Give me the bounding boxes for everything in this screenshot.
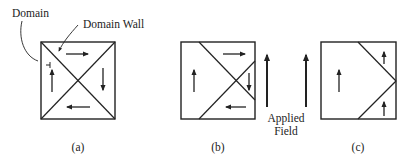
domain-diagram-figure: Domain Domain Wall (a) (b) Applied xyxy=(0,0,409,163)
domain-wall-label: Domain Wall xyxy=(83,18,144,30)
domain-wall-2 xyxy=(199,61,255,119)
panel-a: (a) xyxy=(41,42,115,154)
annotation-domain: Domain xyxy=(12,7,49,61)
applied-field-label-line2: Field xyxy=(274,125,298,137)
domain-wall-1 xyxy=(358,42,396,81)
applied-field-indicator: Applied Field xyxy=(267,55,306,137)
domain-wall-1 xyxy=(199,42,255,100)
domain-wall-2 xyxy=(358,81,396,119)
panel-c-caption: (c) xyxy=(352,141,365,154)
domain-wall-leader-arrow xyxy=(59,25,78,51)
annotation-domain-wall: Domain Wall xyxy=(59,18,144,51)
panel-c: (c) xyxy=(321,42,396,154)
domain-leader-line xyxy=(21,21,38,61)
applied-field-label-line1: Applied xyxy=(267,112,304,125)
wall-tick-mark xyxy=(46,62,50,68)
panel-b: (b) xyxy=(181,42,255,154)
panel-a-caption: (a) xyxy=(72,141,85,154)
panel-c-outline xyxy=(321,42,396,119)
panel-b-caption: (b) xyxy=(211,141,225,154)
domain-label: Domain xyxy=(12,7,49,19)
